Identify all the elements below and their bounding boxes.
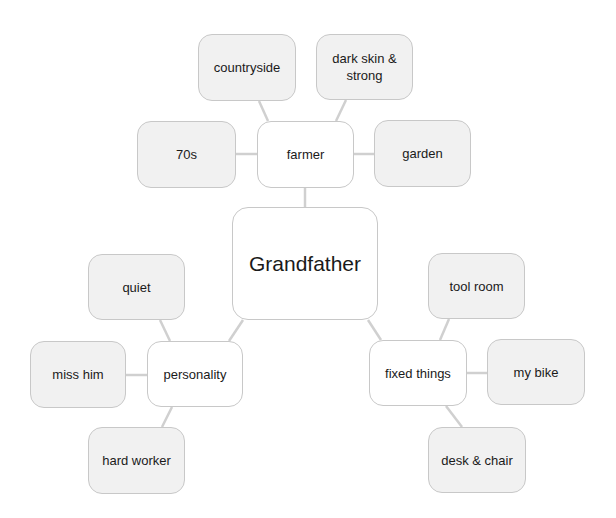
leaf-node-miss-him[interactable]: miss him [30, 341, 126, 408]
leaf-node-quiet[interactable]: quiet [88, 254, 185, 320]
leaf-node-tool-room[interactable]: tool room [428, 253, 525, 319]
leaf-node-garden[interactable]: garden [374, 120, 471, 187]
leaf-node-70s[interactable]: 70s [137, 121, 236, 188]
leaf-node-hard-worker[interactable]: hard worker [88, 427, 185, 494]
leaf-node-dark-skin-strong[interactable]: dark skin & strong [316, 34, 413, 100]
leaf-node-countryside[interactable]: countryside [198, 34, 296, 101]
branch-node-personality[interactable]: personality [147, 341, 243, 407]
root-node-grandfather[interactable]: Grandfather [232, 207, 378, 320]
leaf-node-desk-chair[interactable]: desk & chair [428, 427, 526, 493]
branch-node-fixed-things[interactable]: fixed things [369, 340, 467, 406]
branch-node-farmer[interactable]: farmer [257, 121, 354, 188]
leaf-node-my-bike[interactable]: my bike [487, 339, 585, 405]
